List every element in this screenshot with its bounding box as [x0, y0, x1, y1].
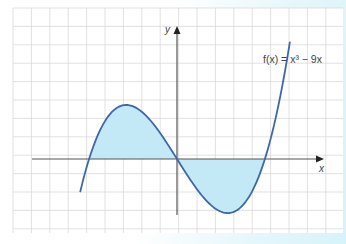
x-axis-label: x [318, 163, 325, 174]
function-label: f(x) = x³ − 9x [263, 53, 323, 65]
y-axis-label: y [164, 24, 171, 35]
plot-area [13, 8, 343, 233]
function-graph: x y f(x) = x³ − 9x [0, 0, 346, 244]
